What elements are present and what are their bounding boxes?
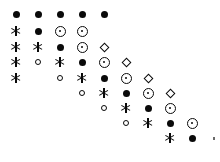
asterisk-icon [33,42,44,53]
open-circle-icon [79,90,85,96]
diamond-icon [165,88,175,98]
data-point-circle-dot [162,100,178,116]
data-point-filled-circle [52,6,68,22]
diamond-icon [121,57,131,67]
asterisk-icon [143,118,154,129]
data-point-asterisk [8,70,24,86]
data-point-asterisk [118,100,134,116]
filled-circle-icon [189,135,196,142]
data-point-circle-dot [74,23,90,39]
filled-circle-icon [57,11,64,18]
circle-dot-icon [77,26,88,37]
data-point-asterisk [74,70,90,86]
data-point-open-circle [30,54,46,70]
asterisk-icon [11,26,22,37]
filled-circle-icon [101,75,108,82]
filled-circle-icon [13,11,20,18]
open-circle-icon [35,59,41,65]
asterisk-icon [121,103,132,114]
data-point-filled-circle [140,100,156,116]
filled-circle-icon [35,11,42,18]
data-point-circle-dot [96,54,112,70]
data-point-filled-circle [118,85,134,101]
data-point-circle-dot [118,70,134,86]
data-point-asterisk [52,54,68,70]
data-point-asterisk [140,115,156,131]
data-point-asterisk [96,85,112,101]
filled-circle-icon [101,11,108,18]
data-point-open-circle [74,85,90,101]
asterisk-icon [11,73,22,84]
filled-circle-icon [123,90,130,97]
open-circle-icon [123,120,129,126]
data-point-asterisk [162,130,178,146]
data-point-asterisk [8,54,24,70]
scatter-plot-canvas [0,0,220,162]
circle-dot-icon [55,26,66,37]
filled-circle-icon [57,44,64,51]
circle-dot-icon [143,88,154,99]
asterisk-icon [165,133,176,144]
filled-circle-icon [79,59,86,66]
data-point-filled-circle [96,70,112,86]
circle-dot-icon [187,118,198,129]
data-point-diamond [140,70,156,86]
data-point-diamond [118,54,134,70]
diamond-icon [99,42,109,52]
asterisk-icon [77,73,88,84]
data-point-filled-circle [8,6,24,22]
filled-circle-icon [79,11,86,18]
data-point-circle-dot [184,115,200,131]
open-circle-icon [57,75,63,81]
data-point-asterisk [8,23,24,39]
data-point-filled-circle [184,130,200,146]
data-point-open-circle [118,115,134,131]
data-point-open-circle [52,70,68,86]
data-point-filled-circle [96,6,112,22]
circle-dot-icon [121,73,132,84]
data-point-filled-circle [30,23,46,39]
circle-dot-icon [99,57,110,68]
asterisk-icon [55,57,66,68]
filled-circle-icon [145,105,152,112]
open-circle-icon [101,105,107,111]
data-point-diamond [162,85,178,101]
speck-icon [213,137,215,140]
data-point-circle-dot [74,39,90,55]
data-point-filled-circle [74,6,90,22]
circle-dot-icon [165,103,176,114]
data-point-circle-dot [52,23,68,39]
filled-circle-icon [167,120,174,127]
asterisk-icon [99,88,110,99]
asterisk-icon [11,42,22,53]
circle-dot-icon [77,42,88,53]
data-point-circle-dot [140,85,156,101]
data-point-open-circle [96,100,112,116]
data-point-filled-circle [52,39,68,55]
data-point-filled-circle [74,54,90,70]
data-point-filled-circle [30,6,46,22]
data-point-filled-circle [162,115,178,131]
diamond-icon [143,73,153,83]
data-point-diamond [96,39,112,55]
data-point-asterisk [8,39,24,55]
filled-circle-icon [35,28,42,35]
data-point-asterisk [30,39,46,55]
asterisk-icon [11,57,22,68]
data-point-speck [206,130,220,146]
